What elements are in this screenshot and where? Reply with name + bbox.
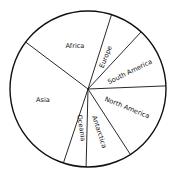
slice-label-africa: Africa (66, 42, 85, 50)
slice-label-asia: Asia (36, 96, 50, 104)
pie-chart: Africa Asia Europe South America North A… (0, 0, 174, 180)
